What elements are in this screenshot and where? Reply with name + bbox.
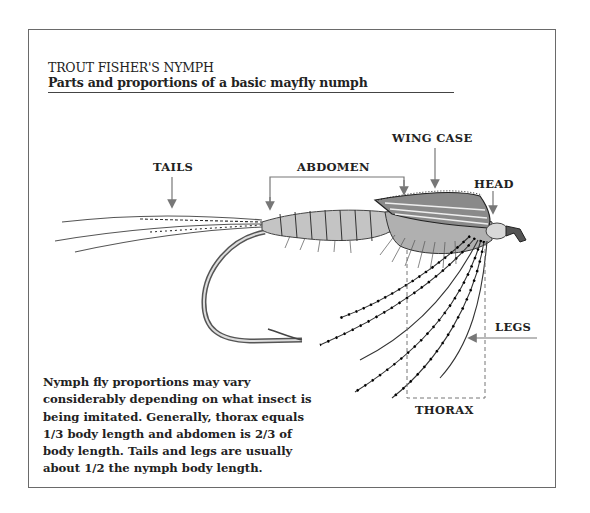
wing-case-label: WING CASE bbox=[392, 131, 472, 145]
description-line: about 1/2 the nymph body length. bbox=[43, 460, 343, 477]
head-label: HEAD bbox=[474, 177, 514, 191]
description-line: considerably depending on what insect is bbox=[43, 391, 343, 408]
tails-label: TAILS bbox=[153, 160, 193, 174]
abdomen-label: ABDOMEN bbox=[297, 160, 370, 174]
description-line: being imitated. Generally, thorax equals bbox=[43, 409, 343, 426]
description-line: 1/3 body length and abdomen is 2/3 of bbox=[43, 426, 343, 443]
abdomen-illustration bbox=[262, 210, 400, 241]
proportions-description: Nymph fly proportions may vary considera… bbox=[43, 374, 343, 478]
legs-label: LEGS bbox=[495, 320, 531, 334]
description-line: body length. Tails and legs are usually bbox=[43, 443, 343, 460]
description-line: Nymph fly proportions may vary bbox=[43, 374, 343, 391]
legs-illustration bbox=[320, 236, 487, 398]
thorax-label: THORAX bbox=[415, 403, 474, 417]
